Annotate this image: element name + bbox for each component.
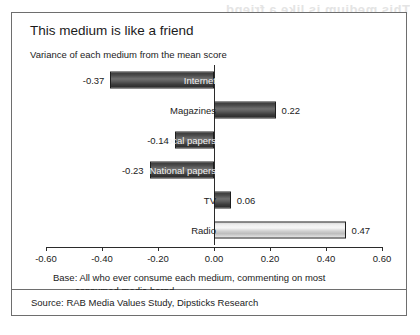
figure-frame: This medium is like a friend Variance of… [11,12,407,290]
bar-radio [214,222,346,239]
bar-row: Magazines0.22 [12,95,406,125]
chart-subtitle: Variance of each medium from the mean sc… [30,49,227,60]
category-label: TV [20,195,216,206]
base-note-line1: Base: All who ever consume each medium, … [53,272,325,283]
source-note: Source: RAB Media Values Study, Dipstick… [31,297,258,308]
x-axis-tick [382,247,383,251]
bar-magazines [214,102,276,119]
bar-row: Local papers-0.14 [12,125,406,155]
bar-tv [214,192,231,209]
x-axis-tick-label: 0.40 [317,253,336,264]
value-label: 0.22 [282,105,301,116]
x-axis-tick [214,247,215,251]
x-axis-tick-label: -0.60 [35,253,57,264]
x-axis-tick-label: -0.40 [91,253,113,264]
category-label: Radio [20,225,216,236]
x-axis: -0.60-0.40-0.200.000.200.400.60 [12,247,406,273]
x-axis-tick-label: 0.00 [205,253,224,264]
bar-row: Radio0.47 [12,215,406,245]
x-axis-tick [102,247,103,251]
category-label: National papers [20,165,216,176]
x-axis-tick [46,247,47,251]
category-label: Magazines [20,105,216,116]
category-label: Internet [20,75,216,86]
bar-row: National papers-0.23 [12,155,406,185]
bar-row: TV0.06 [12,185,406,215]
value-label: -0.23 [122,165,144,176]
category-label: Local papers [20,135,216,146]
bar-row: Internet-0.37 [12,65,406,95]
value-label: 0.47 [352,225,371,236]
x-axis-tick-label: 0.60 [373,253,392,264]
source-box: Source: RAB Media Values Study, Dipstick… [11,290,407,316]
zero-axis-line [214,65,215,245]
chart-title: This medium is like a friend [30,23,194,38]
value-label: -0.14 [147,135,169,146]
x-axis-tick-label: 0.20 [261,253,280,264]
x-axis-tick [158,247,159,251]
x-axis-tick-label: -0.20 [147,253,169,264]
bar-chart-plot: Internet-0.37Magazines0.22Local papers-0… [12,65,406,245]
x-axis-tick [270,247,271,251]
x-axis-tick [326,247,327,251]
value-label: -0.37 [83,75,105,86]
value-label: 0.06 [237,195,256,206]
